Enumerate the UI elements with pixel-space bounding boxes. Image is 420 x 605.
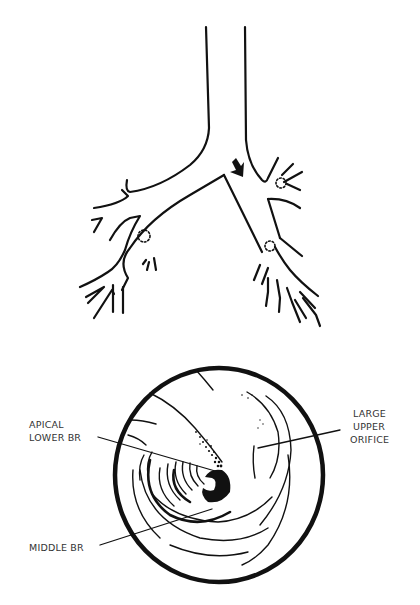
label-apical-lower-br: APICAL LOWER BR [29,418,81,444]
label-large-upper-orifice: LARGE UPPER ORIFICE [350,407,389,446]
label-line: ORIFICE [350,433,389,446]
label-line: LOWER BR [29,431,81,444]
label-middle-br: MIDDLE BR [29,541,84,554]
label-line: UPPER [350,420,389,433]
label-line: MIDDLE BR [29,541,84,554]
bronchoscopic-view-drawing [0,0,420,605]
label-line: APICAL [29,418,81,431]
leader-large-upper-orifice [258,430,340,448]
figure: APICAL LOWER BR MIDDLE BR LARGE UPPER OR… [0,0,420,605]
leader-middle-br [100,509,212,545]
lumen-opening [202,470,230,503]
label-line: LARGE [350,407,389,420]
